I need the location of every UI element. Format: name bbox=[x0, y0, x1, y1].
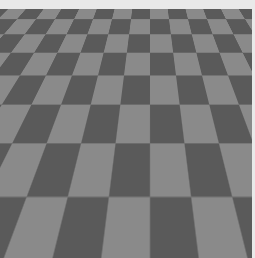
render-viewport bbox=[0, 9, 252, 258]
scene-objects bbox=[0, 9, 252, 258]
render-frame bbox=[0, 0, 255, 258]
cube-2 bbox=[128, 165, 252, 258]
cube-1 bbox=[38, 46, 160, 168]
